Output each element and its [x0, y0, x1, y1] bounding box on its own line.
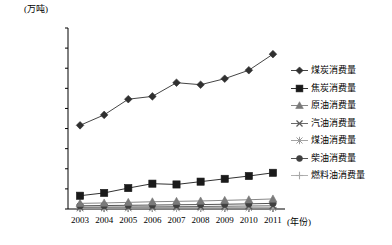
legend-marker-diamond-icon: [291, 65, 308, 76]
legend-item[interactable]: 焦炭消费量: [291, 80, 392, 98]
legend-label: 柴油消费量: [311, 153, 356, 164]
series-1: [76, 169, 276, 199]
legend-label: 汽油消费量: [311, 118, 356, 129]
legend-item[interactable]: 汽油消费量: [291, 115, 392, 133]
marker-square: [173, 181, 180, 188]
legend-item[interactable]: 煤炭消费量: [291, 62, 392, 80]
marker-circle: [297, 155, 303, 161]
marker-square: [101, 189, 108, 196]
marker-diamond: [149, 93, 157, 101]
consumption-line-chart: (万吨) 05000.0010000.0015000.0020000.00250…: [0, 0, 392, 245]
marker-diamond: [269, 50, 277, 58]
marker-square: [197, 178, 204, 185]
legend-label: 焦炭消费量: [311, 83, 356, 94]
marker-square: [149, 180, 156, 187]
legend-label: 原油消费量: [311, 100, 356, 111]
marker-square: [221, 175, 228, 182]
legend-marker-square-icon: [291, 83, 308, 94]
marker-diamond: [76, 122, 84, 130]
marker-diamond: [100, 111, 108, 119]
legend-label: 煤油消费量: [311, 135, 356, 146]
marker-diamond: [124, 95, 132, 103]
legend-item[interactable]: 煤油消费量: [291, 132, 392, 150]
legend-marker-circle-icon: [291, 153, 308, 164]
series-line: [80, 54, 273, 125]
marker-square: [76, 192, 83, 199]
marker-square: [269, 169, 276, 176]
marker-diamond: [296, 67, 303, 74]
legend-marker-asterisk-icon: [291, 135, 308, 146]
marker-square: [296, 85, 303, 92]
marker-triangle: [269, 195, 277, 202]
legend-marker-x-icon: [291, 118, 308, 129]
series-0: [76, 50, 276, 129]
marker-diamond: [245, 66, 253, 74]
legend-label: 煤炭消费量: [311, 65, 356, 76]
legend-item[interactable]: 原油消费量: [291, 97, 392, 115]
marker-square: [245, 172, 252, 179]
legend-item[interactable]: 柴油消费量: [291, 150, 392, 168]
chart-legend: 煤炭消费量焦炭消费量原油消费量汽油消费量煤油消费量柴油消费量燃料油消费量: [291, 62, 392, 185]
legend-marker-triangle-icon: [291, 100, 308, 111]
legend-marker-plus-icon: [291, 170, 308, 181]
marker-diamond: [221, 75, 229, 83]
marker-square: [125, 184, 132, 191]
legend-item[interactable]: 燃料油消费量: [291, 167, 392, 185]
marker-diamond: [173, 79, 181, 87]
legend-label: 燃料油消费量: [311, 170, 365, 181]
marker-diamond: [197, 81, 205, 89]
